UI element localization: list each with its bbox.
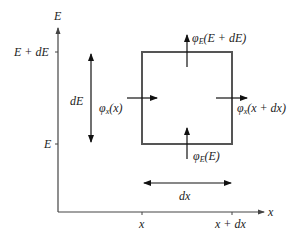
flux-label-phi-x-x-plus-dx: φx(x + dx) [237, 101, 286, 116]
flux-diagram: E x E + dE E x x + dx dE dx φx(x) φx(x +… [0, 0, 300, 240]
x-axis-label: x [267, 205, 274, 219]
tick-label-x: x [138, 217, 145, 231]
y-axis-label: E [53, 9, 62, 23]
dE-label: dE [70, 94, 84, 108]
tick-label-E: E [43, 137, 52, 151]
tick-label-E-plus-dE: E + dE [13, 45, 49, 59]
flux-label-phi-E-E: φE(E) [193, 149, 220, 164]
flux-label-phi-E-E-plus-dE: φE(E + dE) [192, 31, 246, 46]
dx-label: dx [179, 189, 191, 203]
flux-label-phi-x-x: φx(x) [99, 101, 123, 116]
tick-label-x-plus-dx: x + dx [214, 217, 246, 231]
